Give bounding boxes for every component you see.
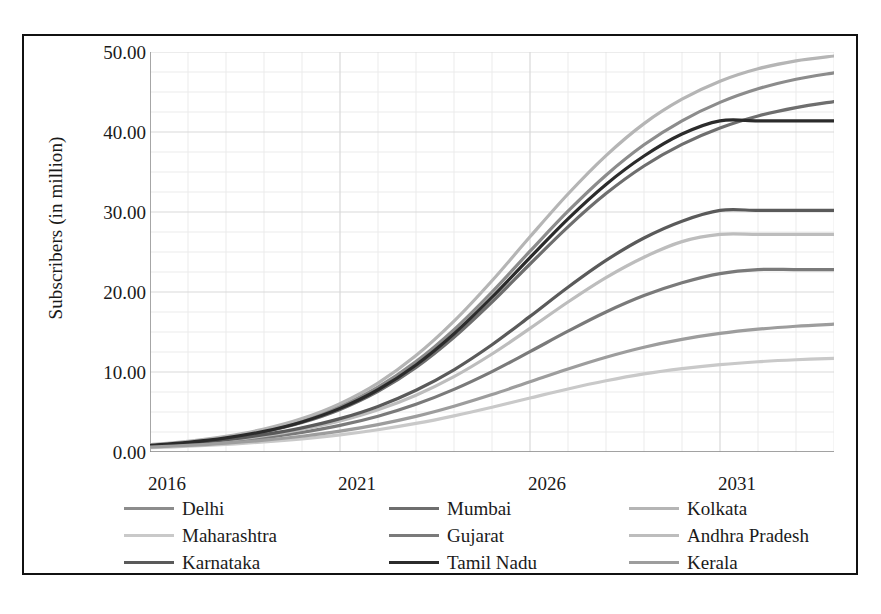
x-axis-tick-label: 2021 — [338, 474, 376, 493]
legend-item[interactable]: Karnataka — [124, 553, 260, 572]
chart-canvas — [150, 52, 834, 452]
x-axis-tick-label: 2016 — [148, 474, 186, 493]
legend-item[interactable]: Gujarat — [389, 526, 504, 545]
y-axis-tick-label: 40.00 — [76, 123, 146, 142]
x-axis-tick-labels: 2016202120262031 — [24, 468, 860, 498]
legend-swatch-icon — [389, 534, 439, 537]
legend-label: Delhi — [182, 499, 224, 518]
legend-swatch-icon — [124, 561, 174, 564]
y-axis-tick-label: 20.00 — [76, 283, 146, 302]
legend-swatch-icon — [124, 507, 174, 510]
legend-label: Karnataka — [182, 553, 260, 572]
chart-outer-frame: Subscribers (in million) 0.0010.0020.003… — [22, 34, 858, 575]
legend-label: Tamil Nadu — [447, 553, 537, 572]
y-axis-tick-label: 50.00 — [76, 43, 146, 62]
legend-label: Kerala — [687, 553, 738, 572]
chart-legend: DelhiMumbaiKolkataMaharashtraGujaratAndh… — [24, 499, 860, 575]
legend-item[interactable]: Maharashtra — [124, 526, 277, 545]
legend-swatch-icon — [389, 507, 439, 510]
legend-swatch-icon — [124, 534, 174, 537]
y-axis-tick-label: 30.00 — [76, 203, 146, 222]
x-axis-tick-label: 2031 — [718, 474, 756, 493]
legend-item[interactable]: Delhi — [124, 499, 224, 518]
y-axis-tick-labels: 0.0010.0020.0030.0040.0050.00 — [60, 36, 146, 468]
chart-plot-region: Subscribers (in million) 0.0010.0020.003… — [24, 36, 860, 468]
legend-label: Andhra Pradesh — [687, 526, 809, 545]
legend-label: Kolkata — [687, 499, 747, 518]
legend-label: Mumbai — [447, 499, 511, 518]
legend-label: Maharashtra — [182, 526, 277, 545]
legend-swatch-icon — [629, 534, 679, 537]
legend-item[interactable]: Andhra Pradesh — [629, 526, 809, 545]
legend-item[interactable]: Kerala — [629, 553, 738, 572]
legend-item[interactable]: Mumbai — [389, 499, 511, 518]
y-axis-tick-label: 0.00 — [76, 443, 146, 462]
legend-label: Gujarat — [447, 526, 504, 545]
x-axis-tick-label: 2026 — [528, 474, 566, 493]
y-axis-tick-label: 10.00 — [76, 363, 146, 382]
legend-swatch-icon — [389, 561, 439, 564]
legend-item[interactable]: Kolkata — [629, 499, 747, 518]
legend-item[interactable]: Tamil Nadu — [389, 553, 537, 572]
legend-swatch-icon — [629, 507, 679, 510]
legend-swatch-icon — [629, 561, 679, 564]
